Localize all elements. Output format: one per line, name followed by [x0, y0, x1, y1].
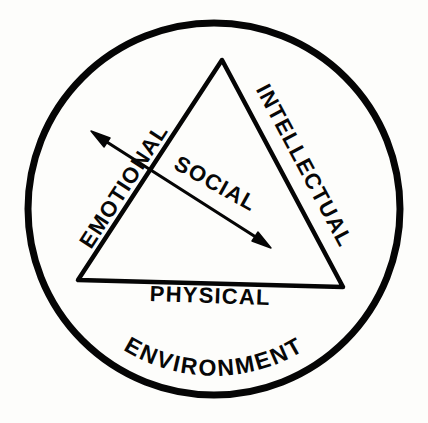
- label-emotional: EMOTIONAL: [74, 119, 173, 252]
- label-social: SOCIAL: [170, 151, 261, 217]
- social-arrowhead-lower-right: [252, 232, 271, 248]
- environment-textpath: ENVIRONMENT: [120, 331, 307, 381]
- label-environment: ENVIRONMENT: [120, 331, 307, 381]
- label-intellectual: INTELLECTUAL: [251, 80, 358, 251]
- social-arrowhead-upper-left: [91, 131, 110, 147]
- wellness-diagram: EMOTIONAL INTELLECTUAL SOCIAL PHYSICAL E…: [0, 0, 428, 423]
- diagram-canvas: EMOTIONAL INTELLECTUAL SOCIAL PHYSICAL E…: [0, 0, 428, 423]
- label-physical: PHYSICAL: [149, 281, 271, 310]
